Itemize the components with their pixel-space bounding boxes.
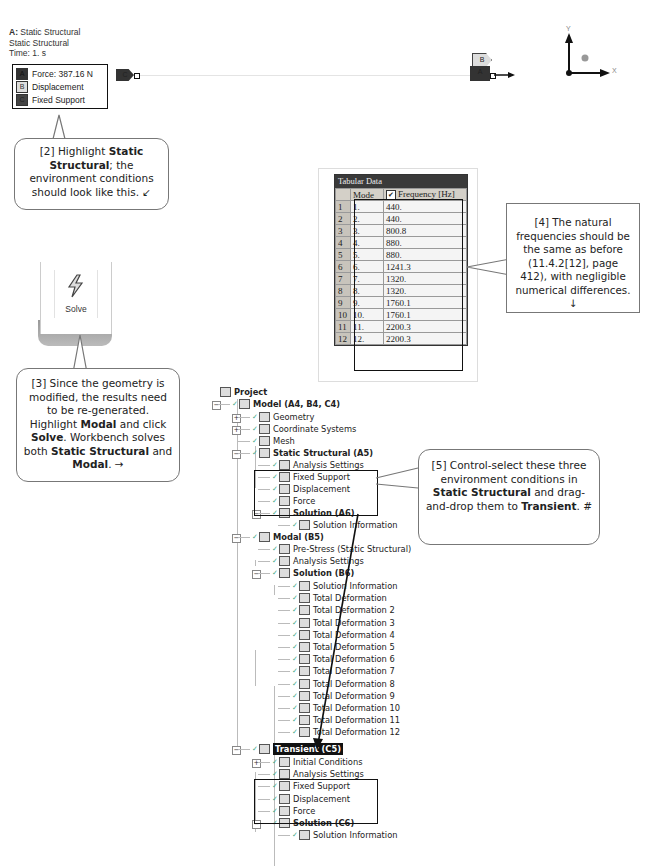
selection-box-static xyxy=(254,470,378,516)
tree-item-solution-b6[interactable]: ✓Solution (B6) xyxy=(272,567,354,579)
tree-item-total-deformation-9[interactable]: ✓Total Deformation 9 xyxy=(292,690,395,702)
solve-label: Solve xyxy=(55,304,97,314)
status-check-icon: ✓ xyxy=(272,759,278,765)
tree-item-label: Total Deformation 4 xyxy=(313,629,395,641)
status-check-icon: ✓ xyxy=(292,632,298,638)
tree-item-label: Transient (C5) xyxy=(273,743,343,755)
status-check-icon: ✓ xyxy=(292,607,298,613)
tree-item-geometry[interactable]: ✓Geometry xyxy=(252,411,314,423)
analysis-prefix: A: xyxy=(9,27,18,37)
status-check-icon: ✓ xyxy=(252,438,258,444)
row-number: 12 xyxy=(336,333,351,345)
tree-item-model[interactable]: ✓Model (A4, B4, C4) xyxy=(232,398,340,410)
expand-icon[interactable]: + xyxy=(252,759,261,768)
expand-icon[interactable]: + xyxy=(232,414,241,423)
tree-item-label: Total Deformation 6 xyxy=(313,653,395,665)
collapse-icon[interactable]: − xyxy=(212,401,221,410)
legend-swatch-a: A xyxy=(16,68,28,80)
callout-text: . # xyxy=(577,500,592,512)
tree-item-total-deformation-3[interactable]: ✓Total Deformation 3 xyxy=(292,617,395,629)
tree-item-label: Total Deformation 3 xyxy=(313,617,395,629)
row-number: 7 xyxy=(336,273,351,285)
tree-node-icon xyxy=(299,666,310,676)
displacement-tag[interactable]: B xyxy=(472,53,492,67)
solve-button[interactable]: Solve xyxy=(54,270,98,318)
tree-item-label: Total Deformation 7 xyxy=(313,665,395,677)
tree-node-icon xyxy=(279,544,290,554)
tree-item-initial-conditions[interactable]: ✓Initial Conditions xyxy=(272,756,363,768)
tree-item-solution-information[interactable]: ✓Solution Information xyxy=(292,519,397,531)
tree-item-total-deformation-11[interactable]: ✓Total Deformation 11 xyxy=(292,714,400,726)
tree-item-project[interactable]: Project xyxy=(220,386,267,398)
boundary-legend: AForce: 387.16 N BDisplacement CFixed Su… xyxy=(12,64,108,109)
row-number: 6 xyxy=(336,261,351,273)
legend-item-fixed-support: CFixed Support xyxy=(16,93,104,106)
callout-text: . → xyxy=(108,458,123,470)
tree-item-mesh[interactable]: ✓Mesh xyxy=(252,435,295,447)
tree-item-label: Total Deformation 12 xyxy=(313,726,400,738)
callout-bold: Modal xyxy=(80,418,116,430)
collapse-icon[interactable]: − xyxy=(232,450,241,459)
tree-item-coordinate-systems[interactable]: ✓Coordinate Systems xyxy=(252,423,356,435)
status-check-icon: ✓ xyxy=(272,570,278,576)
tree-item-total-deformation-10[interactable]: ✓Total Deformation 10 xyxy=(292,702,400,714)
tree-item-total-deformation-2[interactable]: ✓Total Deformation 2 xyxy=(292,604,395,616)
collapse-icon[interactable]: − xyxy=(232,746,241,755)
status-check-icon: ✓ xyxy=(292,583,298,589)
beam-line[interactable] xyxy=(140,75,500,76)
tree-item-total-deformation-5[interactable]: ✓Total Deformation 5 xyxy=(292,641,395,653)
analysis-time: Time: 1. s xyxy=(9,48,80,59)
tree-item-total-deformation-7[interactable]: ✓Total Deformation 7 xyxy=(292,665,395,677)
legend-label: Displacement xyxy=(32,82,84,92)
tree-item-pre-stress-static-structural-[interactable]: ✓Pre-Stress (Static Structural) xyxy=(272,543,411,555)
fixed-support-tag[interactable]: C xyxy=(116,69,134,81)
legend-swatch-b: B xyxy=(16,81,28,93)
tree-item-transient[interactable]: ✓Transient (C5) xyxy=(252,743,343,755)
force-tag[interactable]: A xyxy=(470,66,490,81)
tree-node-icon xyxy=(299,605,310,615)
tree-node-icon xyxy=(259,412,270,422)
callout-text: [2] Highlight xyxy=(40,145,109,157)
status-check-icon: ✓ xyxy=(272,558,278,564)
tabular-title: Tabular Data xyxy=(335,175,467,188)
tree-node-icon xyxy=(299,691,310,701)
collapse-icon[interactable]: − xyxy=(232,534,241,543)
tree-item-static-structural[interactable]: ✓Static Structural (A5) xyxy=(252,447,373,459)
row-number: 4 xyxy=(336,237,351,249)
tree-item-label: Model (A4, B4, C4) xyxy=(253,398,340,410)
row-number: 1 xyxy=(336,201,351,213)
tree-node-icon xyxy=(299,830,310,840)
tree-item-total-deformation[interactable]: ✓Total Deformation xyxy=(292,592,387,604)
header-rownum xyxy=(336,189,351,201)
tree-item-total-deformation-6[interactable]: ✓Total Deformation 6 xyxy=(292,653,395,665)
tree-item-label: Total Deformation 9 xyxy=(313,690,395,702)
legend-label: Fixed Support xyxy=(32,95,85,105)
tree-node-icon xyxy=(259,424,270,434)
tree-item-solution-information[interactable]: ✓Solution Information xyxy=(292,580,397,592)
status-check-icon: ✓ xyxy=(272,771,278,777)
tree-item-total-deformation-4[interactable]: ✓Total Deformation 4 xyxy=(292,629,395,641)
tree-item-analysis-settings[interactable]: ✓Analysis Settings xyxy=(272,555,364,567)
collapse-icon[interactable]: − xyxy=(252,570,261,579)
tree-item-total-deformation-8[interactable]: ✓Total Deformation 8 xyxy=(292,678,395,690)
tree-item-modal[interactable]: ✓Modal (B5) xyxy=(252,531,324,543)
selection-highlight xyxy=(354,199,463,371)
tree-item-solution-information[interactable]: ✓Solution Information xyxy=(292,829,397,841)
force-arrow-icon xyxy=(494,69,516,81)
tree-item-total-deformation-12[interactable]: ✓Total Deformation 12 xyxy=(292,726,400,738)
tree-item-label: Total Deformation 11 xyxy=(313,714,400,726)
tree-node-icon xyxy=(259,744,270,754)
tree-item-label: Solution (B6) xyxy=(293,567,354,579)
expand-icon[interactable]: + xyxy=(232,426,241,435)
tree-node-icon xyxy=(279,769,290,779)
tree-item-label: Solution Information xyxy=(313,580,397,592)
tree-node-icon xyxy=(299,654,310,664)
callout-step-2: [2] Highlight Static Structural; the env… xyxy=(14,138,169,210)
selection-box-transient xyxy=(254,779,378,824)
callout-bold: Transient xyxy=(521,500,576,512)
tree-item-label: Initial Conditions xyxy=(293,756,363,768)
legend-swatch-c: C xyxy=(16,94,28,106)
row-number: 3 xyxy=(336,225,351,237)
tree-item-label: Total Deformation xyxy=(313,592,387,604)
status-check-icon: ✓ xyxy=(232,401,238,407)
